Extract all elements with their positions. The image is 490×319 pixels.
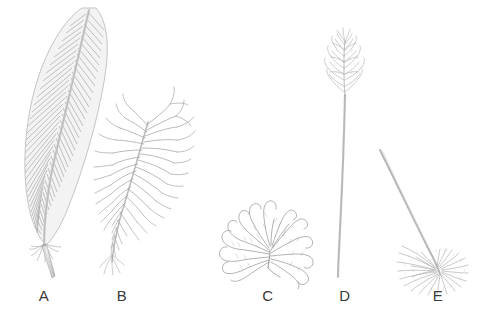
specimen-label-c: C: [256, 288, 280, 303]
specimen-down-feather: [0, 0, 490, 319]
specimen-contour-feather: [0, 0, 490, 319]
specimen-label-b: B: [110, 288, 134, 303]
specimen-label-a: A: [32, 288, 56, 303]
feather-types-figure: A B C D E: [0, 0, 490, 319]
specimen-semiplume-feather: [0, 0, 490, 319]
specimen-label-d: D: [333, 288, 357, 303]
specimen-filoplume-feather: [0, 0, 490, 319]
specimen-bristle-feather: [0, 0, 490, 319]
specimen-label-e: E: [426, 288, 450, 303]
